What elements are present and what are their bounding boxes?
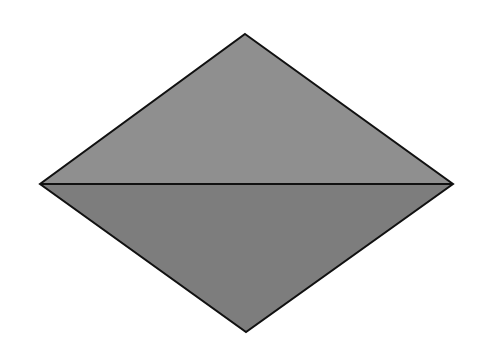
lower-triangle <box>40 184 453 332</box>
rhombus-diagram <box>0 0 484 362</box>
upper-triangle <box>40 34 453 184</box>
